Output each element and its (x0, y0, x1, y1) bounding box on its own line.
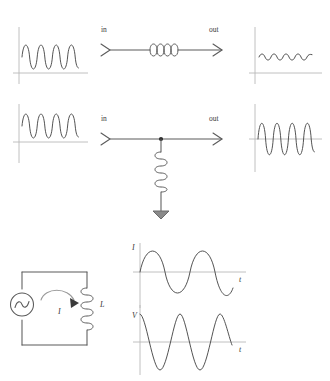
row-shunt-inductor: in out (13, 104, 322, 219)
in-label: in (101, 25, 107, 34)
waveform-input-high-frequency (22, 114, 78, 138)
in-label: in (101, 114, 107, 123)
y-axis-label-V: V (132, 311, 138, 320)
out-label: out (209, 114, 220, 123)
inductor-label-L: L (99, 300, 105, 309)
current-direction-arc (41, 290, 74, 300)
x-axis-label-t: t (239, 345, 242, 354)
ac-source-icon (11, 293, 34, 316)
circuit-shunt-inductor: in out (101, 114, 222, 219)
inductor-coil-shunt (155, 152, 167, 192)
row-series-inductor: in out (13, 25, 322, 84)
waveform-output-attenuated (259, 54, 312, 60)
plot-current-vs-time: I t (131, 243, 246, 308)
inductor-coil-circuit (81, 288, 93, 330)
plot-row2-input (13, 104, 88, 163)
ground-symbol (153, 211, 169, 219)
input-arrowhead (101, 133, 110, 145)
plot-row1-input (13, 27, 88, 84)
current-label-I: I (57, 307, 61, 316)
plot-row2-output (249, 104, 322, 172)
out-label: out (209, 25, 220, 34)
circuit-series-inductor: in out (101, 25, 222, 56)
section-ac-circuit-phase: L I I t V t (11, 243, 247, 375)
y-axis-label-I: I (131, 243, 135, 252)
circuit-ac-inductor-loop: L I (11, 272, 106, 345)
figure-canvas: in out (0, 0, 330, 381)
input-arrowhead (101, 44, 110, 56)
waveform-input-high-frequency (22, 45, 78, 69)
plot-row1-output (249, 27, 322, 84)
inductor-coil-series (150, 44, 178, 56)
x-axis-label-t: t (239, 275, 242, 284)
plot-voltage-vs-time: V t (132, 305, 246, 375)
waveform-current-sine (140, 251, 233, 296)
current-arrowhead (70, 298, 79, 308)
